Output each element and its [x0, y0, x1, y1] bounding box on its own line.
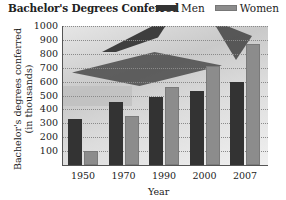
legend-item-women: Women: [215, 2, 279, 14]
bar-women-1970: [125, 116, 139, 165]
y-axis-label-line-1: Bachelor's degrees conferred: [12, 24, 23, 174]
legend: Men Women: [156, 2, 286, 14]
x-tick-label: 1950: [68, 170, 98, 181]
legend-swatch-women: [215, 5, 237, 11]
gridline: [62, 40, 268, 41]
plot-area: [62, 26, 268, 165]
legend-label-men: Men: [181, 2, 205, 14]
bar-men-1970: [109, 102, 123, 165]
legend-item-men: Men: [156, 2, 205, 14]
y-tick-label: 800: [28, 48, 58, 59]
y-tick-label: 300: [28, 117, 58, 128]
chart-title: Bachelor's Degrees Conferred: [8, 2, 179, 14]
bar-men-2000: [190, 91, 204, 165]
bar-women-2007: [246, 44, 260, 165]
legend-label-women: Women: [240, 2, 279, 14]
bar-men-2007: [230, 82, 244, 165]
y-tick-label: 600: [28, 76, 58, 87]
bar-women-2000: [206, 66, 220, 165]
y-tick-label: 1000: [28, 20, 58, 31]
gridline: [62, 68, 268, 69]
legend-swatch-men: [156, 5, 178, 11]
x-tick-label: 1970: [109, 170, 139, 181]
x-axis-label: Year: [148, 186, 169, 197]
x-tick-label: 1990: [149, 170, 179, 181]
bar-women-1950: [84, 151, 98, 165]
x-axis: [62, 165, 268, 166]
y-tick-label: 400: [28, 103, 58, 114]
x-tick-label: 2007: [230, 170, 260, 181]
x-tick-label: 2000: [190, 170, 220, 181]
bar-women-1990: [165, 87, 179, 165]
y-tick-label: 700: [28, 62, 58, 73]
gridline: [62, 54, 268, 55]
y-axis: [62, 26, 63, 165]
y-tick-label: 900: [28, 34, 58, 45]
y-tick-label: 500: [28, 90, 58, 101]
y-tick-label: 100: [28, 145, 58, 156]
y-tick-label: 200: [28, 131, 58, 142]
bar-men-1990: [149, 97, 163, 165]
bar-men-1950: [68, 119, 82, 165]
gridline: [62, 26, 268, 27]
